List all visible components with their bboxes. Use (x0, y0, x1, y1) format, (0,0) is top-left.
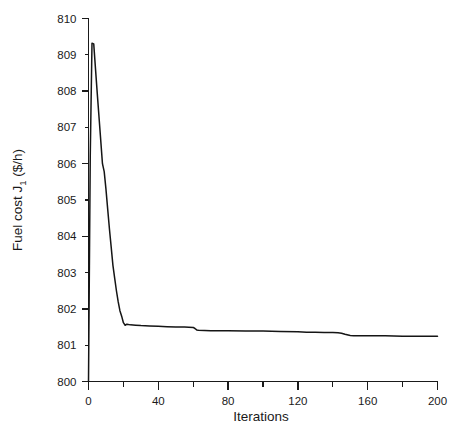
y-axis-title: Fuel cost J1 ($/h) (10, 149, 28, 251)
y-tick-label-800: 800 (57, 376, 76, 388)
x-tick-label-80: 80 (222, 395, 235, 407)
x-axis-tick-labels: 04080120160200 (85, 395, 447, 407)
y-axis-ticks (82, 19, 89, 382)
svg-text:Fuel cost J1 ($/h): Fuel cost J1 ($/h) (10, 149, 28, 251)
y-axis-title-main: Fuel cost J (10, 186, 25, 251)
y-axis-tick-labels: 800801802803804805806807808809810 (57, 13, 77, 388)
y-tick-label-801: 801 (57, 339, 76, 351)
y-tick-label-805: 805 (57, 194, 76, 206)
x-tick-label-120: 120 (288, 395, 307, 407)
fuel-cost-convergence-chart: 800801802803804805806807808809810 040801… (0, 0, 460, 438)
x-tick-label-160: 160 (358, 395, 377, 407)
x-tick-label-0: 0 (85, 395, 91, 407)
y-tick-label-802: 802 (57, 303, 76, 315)
y-tick-label-810: 810 (57, 13, 76, 25)
y-tick-label-807: 807 (57, 121, 76, 133)
x-tick-label-200: 200 (428, 395, 447, 407)
y-tick-label-806: 806 (57, 158, 76, 170)
y-tick-label-804: 804 (57, 230, 77, 242)
y-tick-label-809: 809 (57, 49, 76, 61)
x-axis-title: Iterations (233, 409, 289, 424)
plot-svg: 800801802803804805806807808809810 040801… (0, 0, 460, 438)
y-axis-title-tail: ($/h) (10, 149, 25, 181)
data-series-line (89, 43, 438, 381)
y-tick-label-803: 803 (57, 267, 76, 279)
x-axis-ticks (89, 376, 438, 390)
x-tick-label-40: 40 (152, 395, 165, 407)
y-tick-label-808: 808 (57, 85, 76, 97)
